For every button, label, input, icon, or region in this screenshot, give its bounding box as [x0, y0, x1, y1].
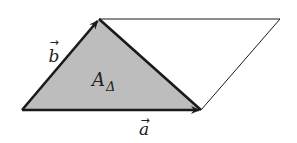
vector-a-arrow-icon: →: [140, 114, 149, 127]
area-label-main: A: [90, 69, 105, 90]
area-label-subscript: Δ: [105, 79, 115, 94]
vector-b-label-text: b: [49, 46, 60, 66]
vector-b-arrow-icon: →: [49, 36, 58, 49]
vector-b-label: b →: [49, 36, 60, 66]
vector-a-label: a →: [139, 114, 150, 139]
parallelogram-right-edge: [201, 19, 280, 110]
parallelogram-diagram: b → A Δ a →: [0, 0, 297, 143]
